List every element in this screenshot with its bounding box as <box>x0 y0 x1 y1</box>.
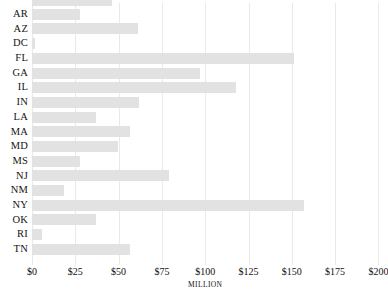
bar-row-label: TN <box>0 242 28 257</box>
bar-track <box>32 183 384 198</box>
bar-row-label: AZ <box>0 22 28 37</box>
bar <box>32 23 138 34</box>
bar-row-label: OK <box>0 213 28 228</box>
bar-track <box>32 95 384 110</box>
bar-row-label: NJ <box>0 169 28 184</box>
bar-row-label: AR <box>0 7 28 22</box>
bar <box>32 9 80 20</box>
bar-row-label: MS <box>0 154 28 169</box>
bar-row-label: MD <box>0 139 28 154</box>
bar <box>32 229 42 240</box>
bar-track <box>32 198 384 213</box>
bar-row: RI <box>0 227 384 242</box>
bar-track <box>32 80 384 95</box>
bar-track <box>32 36 384 51</box>
bar-row: DC <box>0 36 384 51</box>
bar-row-label: IL <box>0 80 28 95</box>
bar <box>32 200 304 211</box>
bar-row: MA <box>0 125 384 140</box>
bar-rows: ARAZDCFLGAILINLAMAMDMSNJNMNYOKRITN <box>0 0 384 257</box>
bar-row-label <box>0 0 28 2</box>
bar-track <box>32 51 384 66</box>
bar-row-label: FL <box>0 51 28 66</box>
bar-track <box>32 0 384 7</box>
bar-row-label: GA <box>0 66 28 81</box>
bar <box>32 38 35 49</box>
bar <box>32 214 96 225</box>
bar-row-label: LA <box>0 110 28 125</box>
bar-row: IN <box>0 95 384 110</box>
bar-row: FL <box>0 51 384 66</box>
x-tick-label: $150 <box>282 266 302 278</box>
bar-row-label: IN <box>0 95 28 110</box>
bar-row-label: NY <box>0 198 28 213</box>
bar <box>32 0 112 6</box>
bar-row: NJ <box>0 169 384 184</box>
bar-row: NY <box>0 198 384 213</box>
bar-row: IL <box>0 80 384 95</box>
bar-track <box>32 242 384 257</box>
bar-row: OK <box>0 213 384 228</box>
bar-row-clipped <box>0 0 384 7</box>
bar <box>32 141 118 152</box>
bar-track <box>32 169 384 184</box>
bar-row: NM <box>0 183 384 198</box>
x-tick-label: $0 <box>27 266 37 278</box>
bar <box>32 112 96 123</box>
x-tick-label: $100 <box>195 266 215 278</box>
bar <box>32 68 200 79</box>
bar-row: GA <box>0 66 384 81</box>
bar <box>32 244 130 255</box>
bar <box>32 185 64 196</box>
bar <box>32 53 294 64</box>
bar-row-label: MA <box>0 125 28 140</box>
bar-track <box>32 139 384 154</box>
bar <box>32 82 236 93</box>
bar-row: AZ <box>0 22 384 37</box>
x-tick-label: $200 <box>368 266 388 278</box>
bar-row: LA <box>0 110 384 125</box>
bar-track <box>32 125 384 140</box>
bar-track <box>32 227 384 242</box>
plot-area: ARAZDCFLGAILINLAMAMDMSNJNMNYOKRITN <box>0 0 384 268</box>
x-tick-label: $50 <box>111 266 126 278</box>
x-tick-label: $175 <box>325 266 345 278</box>
bar-row: AR <box>0 7 384 22</box>
bar-track <box>32 110 384 125</box>
bar-track <box>32 154 384 169</box>
x-tick-label: $125 <box>239 266 259 278</box>
bar <box>32 126 130 137</box>
bar-track <box>32 213 384 228</box>
x-tick-label: $25 <box>68 266 83 278</box>
bar-row-label: RI <box>0 227 28 242</box>
x-tick-label: $75 <box>154 266 169 278</box>
bar-track <box>32 7 384 22</box>
bar <box>32 156 80 167</box>
bar-row-label: NM <box>0 183 28 198</box>
bar-track <box>32 66 384 81</box>
bar-row-label: DC <box>0 36 28 51</box>
bar-row: MD <box>0 139 384 154</box>
bar <box>32 97 139 108</box>
bar-track <box>32 22 384 37</box>
bar <box>32 170 169 181</box>
x-axis: $0$25$50$75$100$125$150$175$200MILLION <box>0 266 384 297</box>
bar-row: TN <box>0 242 384 257</box>
x-axis-unit-label: MILLION <box>188 280 222 290</box>
bar-row: MS <box>0 154 384 169</box>
